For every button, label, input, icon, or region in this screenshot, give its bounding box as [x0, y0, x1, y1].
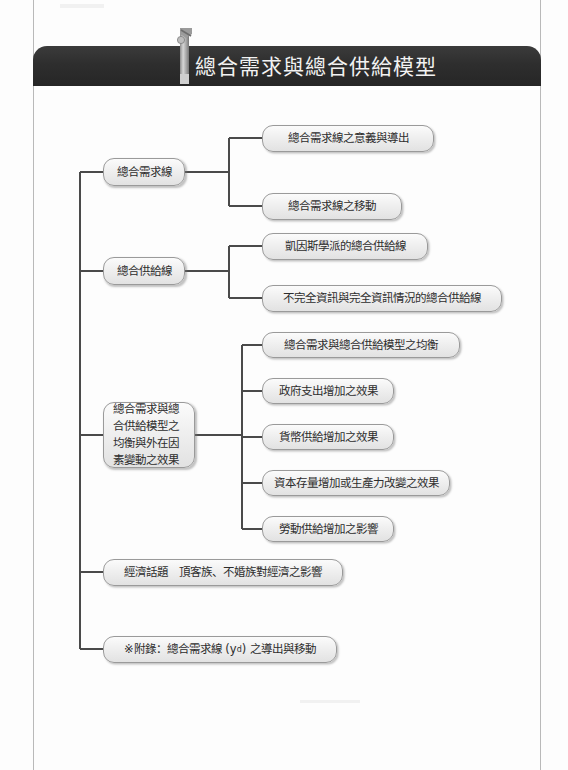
- node-aggregate-supply[interactable]: 總合供給線: [103, 257, 185, 285]
- node-as-information[interactable]: 不完全資訊與完全資訊情況的總合供給線: [262, 285, 502, 312]
- page-canvas: 總合需求與總合供給模型: [0, 0, 568, 770]
- appendix-marker-icon: ※: [124, 642, 134, 657]
- node-eq-equilibrium[interactable]: 總合需求與總合供給模型之均衡: [262, 332, 460, 358]
- node-eq-capital[interactable]: 資本存量增加或生產力改變之效果: [262, 470, 450, 496]
- page-title: 總合需求與總合供給模型: [195, 50, 525, 84]
- node-eq-labor-supply[interactable]: 勞動供給增加之影響: [262, 516, 394, 542]
- node-economic-topic[interactable]: 經濟話題 頂客族、不婚族對經濟之影響: [103, 559, 343, 586]
- node-ad-meaning[interactable]: 總合需求線之意義與導出: [262, 125, 434, 152]
- node-as-keynesian[interactable]: 凱因斯學派的總合供給線: [262, 233, 428, 260]
- economic-topic-suffix: 頂客族、不婚族對經濟之影響: [179, 565, 322, 580]
- node-eq-gov-spending[interactable]: 政府支出增加之效果: [262, 378, 394, 404]
- node-ad-shift[interactable]: 總合需求線之移動: [262, 193, 402, 220]
- node-eq-money-supply[interactable]: 貨幣供給增加之效果: [262, 424, 394, 450]
- scan-speck: [60, 4, 104, 8]
- chapter-outline-diagram: 總合需求線 總合需求線之意義與導出 總合需求線之移動 總合供給線 凱因斯學派的總…: [33, 86, 541, 770]
- node-appendix[interactable]: ※ 附錄：總合需求線 (y d ) 之導出與移動: [103, 636, 337, 663]
- node-aggregate-demand[interactable]: 總合需求線: [103, 158, 185, 186]
- appendix-suffix: ) 之導出與移動: [242, 642, 316, 657]
- economic-topic-prefix: 經濟話題: [124, 565, 168, 580]
- appendix-prefix: 附錄：總合需求線 (y: [134, 642, 237, 657]
- node-equilibrium-branch[interactable]: 總合需求與總合供給模型之均衡與外在因素變動之效果: [103, 402, 195, 468]
